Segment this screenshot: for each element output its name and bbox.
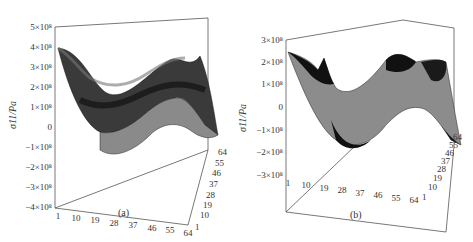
surface-mesh-b (288, 52, 461, 148)
x-tick-a: 37 (129, 220, 139, 230)
x-tick-a: 10 (72, 213, 82, 223)
x-tick-b: 37 (356, 188, 366, 198)
z-axis-a: 5×10⁸ 4×10⁸ 3×10⁸ 2×10⁸ 1×10⁸ 0 −1×10⁸ −… (25, 22, 52, 212)
z-tick-a: 5×10⁸ (30, 22, 52, 32)
y-axis-b: 1 10 19 28 37 46 55 64 (422, 132, 463, 202)
z-tick-a: −2×10⁸ (25, 162, 52, 172)
x-tick-a: 1 (56, 211, 61, 221)
y-tick-b: 19 (433, 173, 443, 183)
x-tick-b: 19 (320, 183, 330, 193)
y-axis-a: 1 10 19 28 37 46 55 64 (195, 147, 228, 232)
x-axis-b: 1 10 19 28 37 46 55 64 (286, 178, 419, 205)
surface-plot-a: 5×10⁸ 4×10⁸ 3×10⁸ 2×10⁸ 1×10⁸ 0 −1×10⁸ −… (0, 0, 236, 242)
y-tick-a: 19 (203, 200, 213, 210)
x-tick-a: 28 (110, 218, 120, 228)
x-tick-b: 55 (392, 193, 402, 203)
z-tick-b: 0 (279, 102, 284, 112)
z-tick-a: 1×10⁸ (30, 102, 52, 112)
y-tick-a: 10 (200, 210, 210, 220)
y-tick-a: 55 (215, 158, 225, 168)
z-tick-b: −3×10⁸ (256, 170, 283, 180)
caption-a: (a) (118, 207, 129, 218)
x-tick-b: 10 (302, 180, 312, 190)
x-tick-a: 19 (91, 215, 101, 225)
z-tick-a: −4×10⁸ (25, 202, 52, 212)
chart-panel-a: 5×10⁸ 4×10⁸ 3×10⁸ 2×10⁸ 1×10⁸ 0 −1×10⁸ −… (0, 0, 236, 242)
z-tick-a: 3×10⁸ (30, 62, 52, 72)
z-tick-b: −1×10⁸ (256, 125, 283, 135)
y-tick-a: 37 (209, 179, 219, 189)
z-tick-b: 1×10⁸ (261, 79, 283, 89)
z-tick-a: 2×10⁸ (30, 82, 52, 92)
caption-b: (b) (350, 209, 362, 220)
y-tick-b: 10 (428, 182, 438, 192)
y-tick-b: 64 (453, 132, 463, 142)
z-axis-b: 3×10⁸ 2×10⁸ 1×10⁸ 0 −1×10⁸ −2×10⁸ −3×10⁸ (256, 35, 283, 180)
z-tick-b: 3×10⁸ (261, 35, 283, 45)
chart-panel-b: 3×10⁸ 2×10⁸ 1×10⁸ 0 −1×10⁸ −2×10⁸ −3×10⁸… (236, 0, 473, 242)
x-tick-a: 46 (148, 223, 158, 233)
z-tick-a: −3×10⁸ (25, 182, 52, 192)
x-tick-b: 64 (410, 195, 420, 205)
z-tick-b: −2×10⁸ (256, 147, 283, 157)
y-tick-a: 28 (206, 190, 216, 200)
x-tick-a: 55 (166, 225, 176, 235)
x-tick-b: 46 (374, 190, 384, 200)
z-tick-a: 4×10⁸ (30, 42, 52, 52)
z-tick-b: 2×10⁸ (261, 57, 283, 67)
z-axis-title-b: σ11/Pa (237, 104, 248, 132)
x-tick-b: 28 (338, 185, 348, 195)
x-tick-b: 1 (286, 178, 291, 188)
z-tick-a: −1×10⁸ (25, 142, 52, 152)
y-tick-b: 1 (422, 192, 427, 202)
y-tick-a: 1 (195, 222, 200, 232)
surface-mesh-a (58, 48, 218, 154)
surface-plot-b: 3×10⁸ 2×10⁸ 1×10⁸ 0 −1×10⁸ −2×10⁸ −3×10⁸… (236, 0, 473, 242)
z-axis-title-a: σ11/Pa (7, 101, 18, 129)
y-tick-a: 46 (212, 168, 222, 178)
x-tick-a: 64 (184, 228, 194, 238)
y-tick-a: 64 (218, 147, 228, 157)
z-tick-a: 0 (48, 122, 53, 132)
